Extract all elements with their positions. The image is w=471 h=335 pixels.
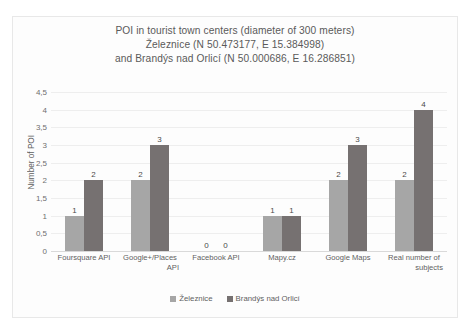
bar-slot-brandys: 1 bbox=[282, 92, 301, 251]
y-tick-label-4-5: 4,5 bbox=[36, 88, 47, 97]
bar-slot-brandys: 4 bbox=[414, 92, 433, 251]
x-label-facebook-api: Facebook API bbox=[183, 253, 249, 273]
bar-zeleznice[interactable] bbox=[65, 216, 84, 251]
x-label-line-1: Foursquare API bbox=[58, 253, 111, 262]
bar-value-label-zeleznice: 2 bbox=[336, 170, 340, 179]
chart-title-line-3: and Brandýs nad Orlicí (N 50.000686, E 1… bbox=[13, 52, 457, 66]
legend-item-zeleznice[interactable]: Železnice bbox=[170, 294, 212, 303]
bar-brandys[interactable] bbox=[84, 180, 103, 251]
bar-group-real-number-of-subjects: 2 4 bbox=[381, 92, 447, 251]
bar-value-label-zeleznice: 0 bbox=[204, 241, 208, 250]
y-tick-label-1-5: 1,5 bbox=[36, 194, 47, 203]
bar-value-label-brandys: 0 bbox=[223, 241, 227, 250]
y-tick-label-1: 1 bbox=[43, 211, 47, 220]
bar-group-foursquare-api: 1 2 bbox=[51, 92, 117, 251]
chart-legend: Železnice Brandýs nad Orlicí bbox=[13, 294, 457, 303]
bar-slot-zeleznice: 1 bbox=[263, 92, 282, 251]
legend-label: Brandýs nad Orlicí bbox=[236, 294, 300, 303]
bar-value-label-brandys: 2 bbox=[91, 170, 95, 179]
bar-value-label-zeleznice: 1 bbox=[72, 206, 76, 215]
bar-slot-zeleznice: 2 bbox=[395, 92, 414, 251]
x-label-google-maps: Google Maps bbox=[315, 253, 381, 273]
bar-group-facebook-api: 0 0 bbox=[183, 92, 249, 251]
bar-value-label-zeleznice: 2 bbox=[402, 170, 406, 179]
bar-value-label-brandys: 4 bbox=[421, 100, 425, 109]
y-tick-label-2: 2 bbox=[43, 176, 47, 185]
bar-slot-zeleznice: 1 bbox=[65, 92, 84, 251]
bar-brandys[interactable] bbox=[150, 145, 169, 251]
bar-brandys[interactable] bbox=[282, 216, 301, 251]
x-label-mapy-cz: Mapy.cz bbox=[249, 253, 315, 273]
bar-value-label-brandys: 1 bbox=[289, 206, 293, 215]
x-label-foursquare-api: Foursquare API bbox=[51, 253, 117, 273]
x-label-line-2: subjects bbox=[382, 263, 446, 273]
chart-title: POI in tourist town centers (diameter of… bbox=[13, 24, 457, 66]
bar-zeleznice[interactable] bbox=[329, 180, 348, 251]
bar-brandys[interactable] bbox=[348, 145, 367, 251]
x-label-line-2: API bbox=[118, 263, 182, 273]
legend-item-brandys-nad-orlici[interactable]: Brandýs nad Orlicí bbox=[227, 294, 300, 303]
bar-slot-brandys: 3 bbox=[348, 92, 367, 251]
y-tick-label-3-5: 3,5 bbox=[36, 123, 47, 132]
bar-value-label-brandys: 3 bbox=[157, 135, 161, 144]
bar-group-google-maps: 2 3 bbox=[315, 92, 381, 251]
legend-label: Železnice bbox=[179, 294, 212, 303]
bar-slot-zeleznice: 2 bbox=[329, 92, 348, 251]
bar-slot-brandys: 3 bbox=[150, 92, 169, 251]
y-tick-label-2-5: 2,5 bbox=[36, 158, 47, 167]
bar-slot-zeleznice: 0 bbox=[197, 92, 216, 251]
bar-slot-brandys: 2 bbox=[84, 92, 103, 251]
x-label-line-1: Real number of bbox=[388, 253, 440, 262]
x-axis-labels: Foursquare API Google+/Places API Facebo… bbox=[51, 253, 447, 273]
bar-group-mapy-cz: 1 1 bbox=[249, 92, 315, 251]
bar-value-label-zeleznice: 2 bbox=[138, 170, 142, 179]
x-label-real-number-of-subjects: Real number of subjects bbox=[381, 253, 447, 273]
chart-title-line-1: POI in tourist town centers (diameter of… bbox=[13, 24, 457, 38]
bar-value-label-zeleznice: 1 bbox=[270, 206, 274, 215]
x-label-line-1: Mapy.cz bbox=[268, 253, 296, 262]
legend-swatch-icon bbox=[170, 296, 176, 302]
bar-zeleznice[interactable] bbox=[263, 216, 282, 251]
bar-zeleznice[interactable] bbox=[131, 180, 150, 251]
bar-slot-zeleznice: 2 bbox=[131, 92, 150, 251]
chart-container: POI in tourist town centers (diameter of… bbox=[12, 16, 458, 318]
bar-brandys[interactable] bbox=[414, 110, 433, 251]
legend-swatch-icon bbox=[227, 296, 233, 302]
x-label-line-1: Google+/Places bbox=[123, 253, 177, 262]
plot-area: 0 0,5 1 1,5 2 2,5 3 3,5 4 4,5 1 2 bbox=[51, 92, 447, 251]
y-tick-label-0-5: 0,5 bbox=[36, 229, 47, 238]
y-tick-label-4: 4 bbox=[43, 105, 47, 114]
bar-zeleznice[interactable] bbox=[395, 180, 414, 251]
y-tick-label-3: 3 bbox=[43, 141, 47, 150]
bar-groups: 1 2 2 3 bbox=[51, 92, 447, 251]
x-label-google-places-api: Google+/Places API bbox=[117, 253, 183, 273]
bar-value-label-brandys: 3 bbox=[355, 135, 359, 144]
bar-group-google-places-api: 2 3 bbox=[117, 92, 183, 251]
bar-slot-brandys: 0 bbox=[216, 92, 235, 251]
x-label-line-1: Google Maps bbox=[325, 253, 370, 262]
y-tick-label-0: 0 bbox=[43, 247, 47, 256]
axis-baseline bbox=[51, 251, 447, 252]
chart-title-line-2: Železnice (N 50.473177, E 15.384998) bbox=[13, 38, 457, 52]
x-label-line-1: Facebook API bbox=[192, 253, 239, 262]
